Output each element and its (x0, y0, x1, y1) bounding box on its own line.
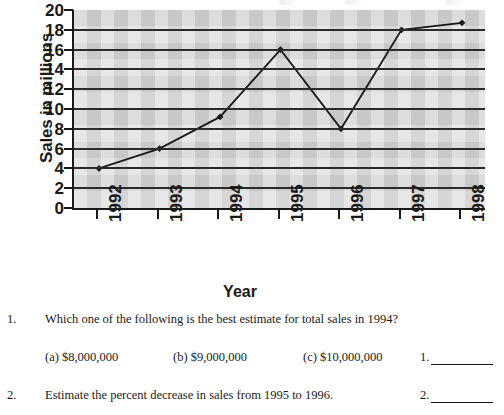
answer-slot-1[interactable]: 1. (420, 350, 504, 365)
gridline-12 (74, 88, 485, 90)
answer-1-label: 1. (420, 350, 429, 364)
question-1-choices-row: (a) $8,000,000 (b) $9,000,000 (c) $10,00… (0, 346, 504, 384)
y-tick-label-18: 18 (20, 21, 64, 38)
choice-c[interactable]: (c) $10,000,000 (303, 350, 383, 365)
answer-2-label: 2. (420, 388, 429, 402)
y-tick-label-8: 8 (20, 120, 64, 137)
question-2-number: 2. (7, 388, 16, 403)
y-tick-label-16: 16 (20, 41, 64, 58)
x-tick-label-1998: 1998 (469, 166, 489, 222)
series-polyline (99, 23, 462, 169)
y-tick-label-4: 4 (20, 160, 64, 177)
question-1-number: 1. (7, 312, 16, 327)
x-tick-mark-1998 (459, 210, 461, 219)
y-axis-tick-labels: 20181614121086420 (20, 10, 64, 208)
question-1-text: Which one of the following is the best e… (45, 312, 398, 327)
x-tick-label-1996: 1996 (348, 166, 368, 222)
question-2-text: Estimate the percent decrease in sales f… (45, 388, 333, 403)
x-tick-mark-1992 (96, 210, 98, 219)
answer-1-blank[interactable] (431, 353, 493, 365)
gridline-16 (74, 49, 485, 51)
x-tick-mark-1995 (278, 210, 280, 219)
x-tick-mark-1994 (217, 210, 219, 219)
data-point-1998 (459, 19, 466, 26)
x-axis-title: Year (0, 283, 480, 301)
y-tick-label-10: 10 (20, 101, 64, 118)
x-tick-mark-1993 (157, 210, 159, 219)
x-tick-label-1993: 1993 (167, 166, 187, 222)
answer-slot-2[interactable]: 2. (420, 388, 504, 403)
x-tick-label-1992: 1992 (106, 166, 126, 222)
gridline-8 (74, 128, 485, 130)
worksheet-questions: 1. Which one of the following is the bes… (0, 308, 504, 415)
choice-a[interactable]: (a) $8,000,000 (45, 350, 118, 365)
question-1: 1. Which one of the following is the bes… (0, 308, 504, 346)
gridline-10 (74, 108, 485, 110)
sales-line-chart: Sales in millions 20181614121086420 1992… (0, 0, 504, 300)
x-tick-mark-1996 (338, 210, 340, 219)
choice-b[interactable]: (b) $9,000,000 (173, 350, 247, 365)
question-2: 2. Estimate the percent decrease in sale… (0, 384, 504, 415)
answer-2-blank[interactable] (431, 391, 493, 403)
y-tick-label-6: 6 (20, 140, 64, 157)
x-tick-label-1994: 1994 (227, 166, 247, 222)
y-tick-label-14: 14 (20, 61, 64, 78)
gridline-14 (74, 68, 485, 70)
y-tick-label-20: 20 (20, 2, 64, 19)
y-tick-label-2: 2 (20, 180, 64, 197)
x-tick-label-1997: 1997 (409, 166, 429, 222)
gridline-18 (74, 29, 485, 31)
x-tick-label-1995: 1995 (288, 166, 308, 222)
gridline-6 (74, 148, 485, 150)
x-tick-mark-1997 (399, 210, 401, 219)
y-tick-label-0: 0 (20, 200, 64, 217)
y-tick-label-12: 12 (20, 81, 64, 98)
